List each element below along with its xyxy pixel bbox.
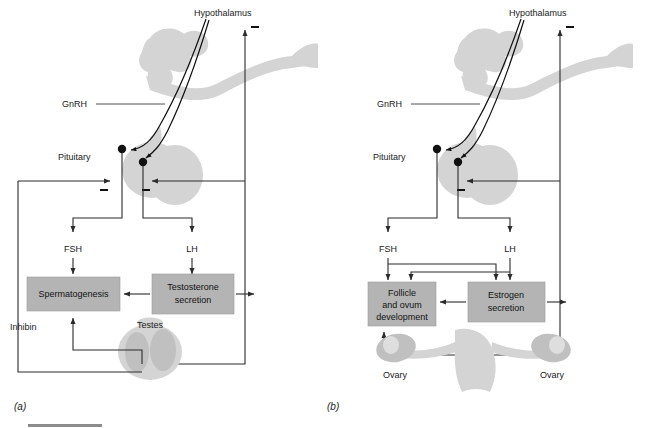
box-estrogen-line2: secretion [488, 303, 525, 313]
lh-cross-to-follicle-b [411, 272, 510, 280]
ovary-label-right-b: Ovary [540, 370, 565, 380]
figure-canvas: GnRH Hypothalamus Pituitary FSH LH Sperm… [0, 0, 645, 428]
box-testosterone-secretion [152, 274, 234, 314]
diagram-svg: GnRH Hypothalamus Pituitary FSH LH Sperm… [0, 0, 645, 428]
gnrh-label-b: GnRH [377, 99, 402, 109]
pituitary-label-b: Pituitary [373, 152, 406, 162]
panel-label-b: (b) [327, 401, 339, 412]
lh-label-b: LH [504, 244, 516, 254]
ovary-label-left-b: Ovary [383, 370, 408, 380]
panel-label-a: (a) [14, 401, 26, 412]
box-testosterone-line2: secretion [175, 295, 212, 305]
box-follicle-line2: and ovum [382, 300, 422, 310]
pituitary-node-posterior [139, 158, 147, 166]
pituitary-node-anterior-b [433, 145, 441, 153]
gnrh-label-a: GnRH [62, 99, 87, 109]
caption-rule [28, 424, 102, 427]
fsh-path-a [73, 153, 122, 232]
hypothalamus-label-a: Hypothalamus [194, 8, 252, 18]
pituitary-node-posterior-b [454, 158, 462, 166]
fsh-label-b: FSH [379, 244, 397, 254]
fsh-path-b [388, 153, 437, 232]
box-follicle-line1: Follicle [388, 288, 416, 298]
right-feedback-rail-b [384, 175, 560, 355]
uterus-ovaries-illustration-b [374, 329, 574, 392]
inhibin-label-a: Inhibin [10, 322, 37, 332]
brain-silhouette-b [437, 28, 633, 205]
panel-b: GnRH Hypothalamus Pituitary FSH LH Folli… [327, 8, 633, 412]
box-spermatogenesis-label: Spermatogenesis [38, 289, 109, 299]
lh-label-a: LH [186, 244, 198, 254]
box-estrogen-secretion [468, 282, 545, 322]
testes-label-a: Testes [137, 320, 164, 330]
hypothalamus-label-b: Hypothalamus [509, 8, 567, 18]
panel-a: GnRH Hypothalamus Pituitary FSH LH Sperm… [10, 8, 318, 412]
box-estrogen-line1: Estrogen [488, 290, 524, 300]
pituitary-node-anterior [118, 145, 126, 153]
box-follicle-line3: development [376, 312, 428, 322]
fsh-label-a: FSH [64, 244, 82, 254]
box-testosterone-line1: Testosterone [167, 282, 219, 292]
brain-silhouette-a [122, 28, 318, 205]
pituitary-label-a: Pituitary [58, 152, 91, 162]
